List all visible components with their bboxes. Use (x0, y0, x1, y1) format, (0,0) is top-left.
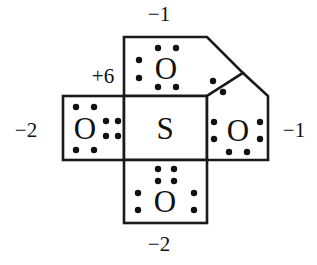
lone-pair-dot (136, 75, 142, 81)
oxygen-left-symbol: O (74, 111, 96, 146)
lone-pair-dot (135, 207, 141, 213)
formal-charge-bottom: −2 (129, 234, 189, 255)
oxygen-top-symbol: O (155, 51, 177, 86)
sulfur-symbol: S (156, 111, 173, 146)
lone-pair-dot (244, 149, 250, 155)
lewis-structure-diagram: O O S O O (0, 0, 317, 265)
lone-pair-dot (191, 190, 197, 196)
lone-pair-dot (257, 119, 263, 125)
formal-charge-left: −2 (2, 120, 50, 141)
formal-charge-top: −1 (129, 4, 189, 25)
bond-pair-dot (155, 178, 161, 184)
lone-pair-dot (155, 84, 161, 90)
shared-pair-dot (220, 89, 226, 95)
bond-pair-dot (115, 118, 121, 124)
lone-pair-dot (173, 84, 179, 90)
formal-charge-center: +6 (76, 66, 130, 87)
lone-pair-dot (173, 45, 179, 51)
lone-pair-dot (136, 57, 142, 63)
lone-pair-dot (257, 136, 263, 142)
lone-pair-dot (73, 104, 79, 110)
lone-pair-dot (91, 147, 97, 153)
shared-pair-dot (210, 78, 216, 84)
oxygen-bottom-symbol: O (154, 184, 176, 219)
lone-pair-dot (135, 190, 141, 196)
bond-pair-dot (155, 166, 161, 172)
bond-pair-dot (115, 133, 121, 139)
lone-pair-dot (191, 207, 197, 213)
lone-pair-dot (91, 104, 97, 110)
lone-pair-dot (73, 147, 79, 153)
lone-pair-dot (155, 45, 161, 51)
bond-pair-dot (103, 118, 109, 124)
bond-pair-dot (211, 136, 217, 142)
bond-pair-dot (211, 119, 217, 125)
bond-pair-dot (171, 178, 177, 184)
bond-pair-dot (171, 166, 177, 172)
oxygen-right-symbol: O (227, 113, 249, 148)
lone-pair-dot (226, 149, 232, 155)
bond-pair-dot (103, 133, 109, 139)
formal-charge-right: −1 (272, 120, 316, 141)
